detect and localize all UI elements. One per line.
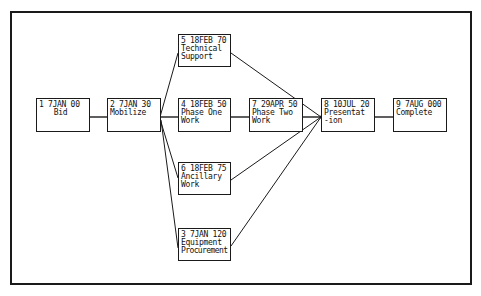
- node-phase-one-work[interactable]: 4 18FEB 50 Phase One Work: [178, 98, 231, 132]
- node-label: Complete: [396, 109, 445, 117]
- node-label-line-2: Work: [181, 117, 229, 125]
- node-label-line-2: Work: [252, 117, 301, 125]
- node-ancillary-work[interactable]: 6 18FEB 75 Ancillary Work: [178, 162, 231, 195]
- node-equipment-procurement[interactable]: 3 7JAN 120 Equipment Procurement: [178, 228, 231, 261]
- diagram-frame: [10, 11, 472, 285]
- node-phase-two-work[interactable]: 7 29APR 50 Phase Two Work: [249, 98, 303, 132]
- node-bid[interactable]: 1 7JAN 00 Bid: [36, 98, 90, 132]
- node-complete[interactable]: 9 7AUG 000 Complete: [393, 98, 447, 132]
- node-label-line-2: Support: [181, 53, 229, 61]
- node-label-line-2: -ion: [324, 117, 373, 125]
- node-technical-support[interactable]: 5 18FEB 70 Technical Support: [178, 34, 231, 67]
- node-mobilize[interactable]: 2 7JAN 30 Mobilize: [107, 98, 161, 132]
- node-label: Mobilize: [110, 109, 159, 117]
- node-label: Bid: [39, 109, 88, 117]
- node-label-line-2: Procurement: [181, 247, 229, 255]
- node-presentation[interactable]: 8 10JUL 20 Presentat -ion: [321, 98, 375, 132]
- node-label-line-2: Work: [181, 181, 229, 189]
